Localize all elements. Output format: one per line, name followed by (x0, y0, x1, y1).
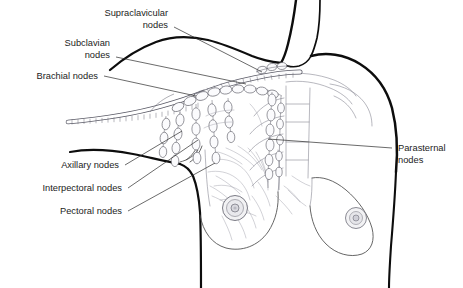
label-interpectoral: Interpectoral nodes (42, 183, 122, 193)
label-axillary: Axillary nodes (61, 160, 119, 170)
label-parasternal-line1: Parasternal (398, 143, 446, 153)
label-brachial: Brachial nodes (36, 71, 98, 81)
lymphatic-drainage-figure: Supraclavicular nodes Subclavian nodes B… (0, 0, 463, 288)
parasternal-node (265, 168, 273, 179)
parasternal-node (268, 94, 276, 106)
parasternal-node (265, 154, 273, 166)
parasternal-node (266, 139, 274, 151)
parasternal-node (267, 109, 275, 121)
right-nipple-areola (346, 208, 367, 229)
label-supraclavicular-line1: Supraclavicular (104, 8, 168, 18)
left-nipple-areola (223, 196, 248, 221)
label-parasternal-line2: nodes (398, 155, 424, 165)
label-subclavian-line1: Subclavian (65, 38, 110, 48)
label-subclavian-line2: nodes (85, 50, 111, 60)
label-supraclavicular-line2: nodes (143, 20, 169, 30)
parasternal-node (266, 124, 274, 136)
label-pectoral: Pectoral nodes (60, 206, 122, 216)
anatomical-illustration: Supraclavicular nodes Subclavian nodes B… (0, 0, 463, 288)
